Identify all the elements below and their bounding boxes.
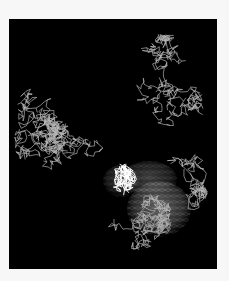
right-upper-domain	[137, 35, 203, 126]
protein-structure-render	[9, 19, 217, 269]
left-domain	[15, 89, 103, 169]
molecular-structure-panel	[9, 19, 217, 269]
